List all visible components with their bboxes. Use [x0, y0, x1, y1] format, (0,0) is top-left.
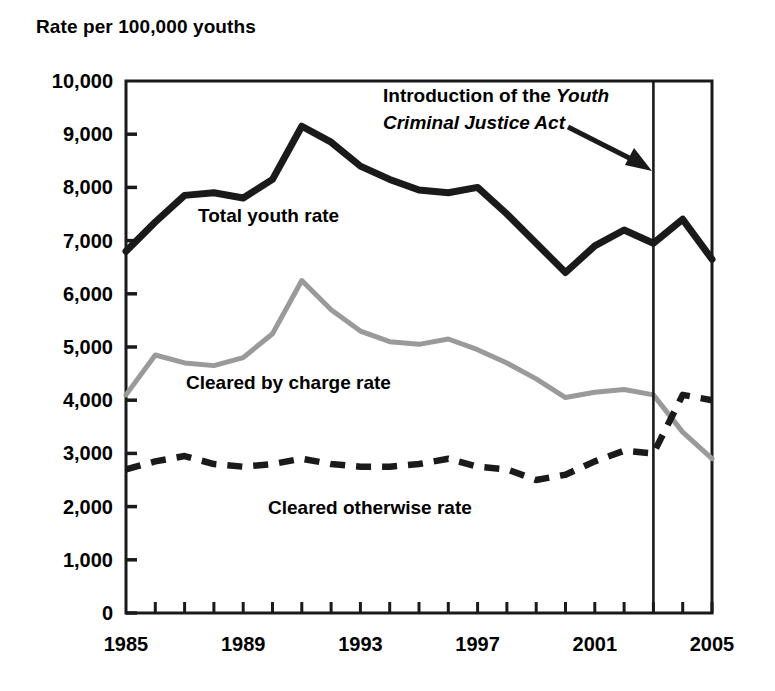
- ycja-arrow-head: [625, 148, 652, 171]
- chart-figure: Rate per 100,000 youths 10,0009,0008,000…: [0, 0, 775, 691]
- series-line-cleared-by-charge-rate: [126, 281, 712, 459]
- series-line-total-youth-rate: [126, 126, 712, 272]
- series-label-total-youth-rate: Total youth rate: [198, 205, 339, 227]
- ycja-annotation-line-1: Introduction of the Youth: [383, 83, 609, 110]
- ycja-annotation: Introduction of the Youth Criminal Justi…: [383, 83, 609, 137]
- series-line-cleared-otherwise-rate: [126, 395, 712, 480]
- ycja-annotation-italic-2: Criminal Justice Act: [383, 110, 609, 137]
- ycja-annotation-italic-1: Youth: [556, 85, 609, 106]
- ycja-annotation-plain: Introduction of the: [383, 85, 556, 106]
- series-label-cleared-by-charge-rate: Cleared by charge rate: [186, 372, 391, 394]
- plot-frame: [126, 81, 712, 613]
- series-label-cleared-otherwise-rate: Cleared otherwise rate: [268, 497, 472, 519]
